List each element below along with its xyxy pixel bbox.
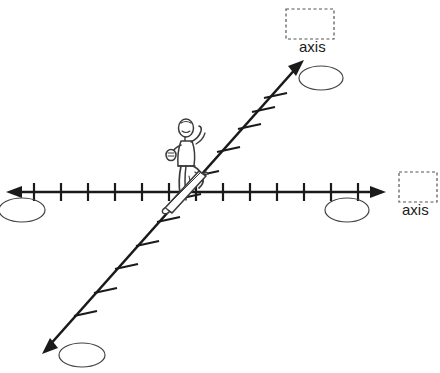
ellipse-left: [0, 198, 45, 222]
diagram-canvas: axis axis: [0, 0, 440, 373]
ellipse-bottom-left: [59, 343, 105, 367]
figure-hand: [166, 150, 176, 161]
axis-label-top: axis: [299, 39, 326, 54]
ellipse-top-right: [299, 66, 343, 90]
horizontal-axis-left-arrowhead: [6, 186, 22, 198]
horizontal-axis-right-arrowhead: [370, 186, 386, 198]
axes-diagram: [0, 0, 440, 373]
ellipse-right: [325, 198, 369, 222]
axis-box-right[interactable]: [399, 172, 437, 202]
axis-box-top[interactable]: [286, 9, 334, 39]
axis-label-right: axis: [402, 202, 429, 217]
